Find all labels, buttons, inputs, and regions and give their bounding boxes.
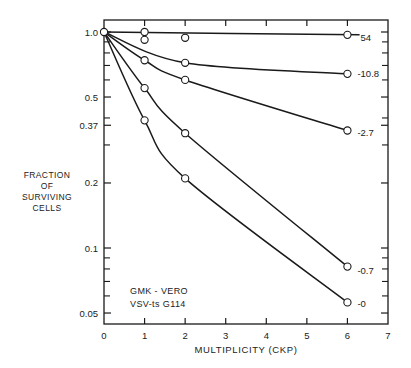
data-point [344, 263, 351, 270]
data-point [344, 299, 351, 306]
y-axis-title-line: FRACTION [24, 170, 71, 180]
y-axis-title-line: CELLS [33, 203, 62, 213]
survival-curves [104, 32, 360, 302]
series-label: -10.8 [357, 68, 379, 79]
y-tick-label: 0.2 [85, 177, 98, 188]
plot-border [104, 20, 388, 324]
data-point [182, 130, 189, 137]
series-label: -2.7 [357, 127, 373, 138]
y-tick-label: 1.0 [85, 27, 98, 38]
y-tick-label: 0.1 [85, 243, 98, 254]
data-point [141, 36, 148, 43]
x-tick-label: 1 [142, 330, 147, 341]
annotation-line: GMK - VERO [130, 286, 188, 296]
data-point [344, 31, 351, 38]
y-axis-title: FRACTIONOFSURVIVINGCELLS [22, 170, 72, 213]
survival-chart: 1.00.50.370.20.10.05 01234567 54-10.8-2.… [0, 0, 411, 368]
plot-frame [104, 20, 388, 324]
series-label: -0 [357, 298, 365, 309]
series-label: 54 [360, 32, 371, 43]
data-point [141, 28, 148, 35]
data-point [100, 28, 107, 35]
data-point [141, 117, 148, 124]
y-axis: 1.00.50.370.20.10.05 [80, 27, 389, 319]
data-point [141, 84, 148, 91]
x-tick-label: 5 [304, 330, 309, 341]
data-point [182, 175, 189, 182]
legend-annotation: GMK - VEROVSV-ts G114 [130, 286, 188, 309]
series-labels: 54-10.8-2.7-0.7-0 [357, 32, 379, 310]
data-point [182, 34, 189, 41]
x-tick-label: 0 [101, 330, 106, 341]
x-axis-title: MULTIPLICITY (CKP) [195, 344, 298, 355]
annotation-line: VSV-ts G114 [130, 299, 186, 309]
curve-10-8 [104, 32, 347, 74]
y-tick-label: 0.5 [85, 92, 98, 103]
series-label: -0.7 [357, 265, 373, 276]
y-tick-label: 0.37 [80, 120, 99, 131]
y-axis-title-line: OF [41, 181, 54, 191]
curve-2-7 [104, 32, 347, 130]
x-tick-label: 4 [264, 330, 269, 341]
y-tick-label: 0.05 [80, 308, 99, 319]
data-point [141, 57, 148, 64]
y-axis-title-line: SURVIVING [22, 192, 72, 202]
data-point [344, 70, 351, 77]
x-tick-label: 3 [223, 330, 228, 341]
x-tick-label: 6 [345, 330, 350, 341]
data-point [182, 76, 189, 83]
data-point [182, 59, 189, 66]
x-tick-label: 2 [182, 330, 187, 341]
x-tick-label: 7 [385, 330, 390, 341]
data-point [344, 127, 351, 134]
